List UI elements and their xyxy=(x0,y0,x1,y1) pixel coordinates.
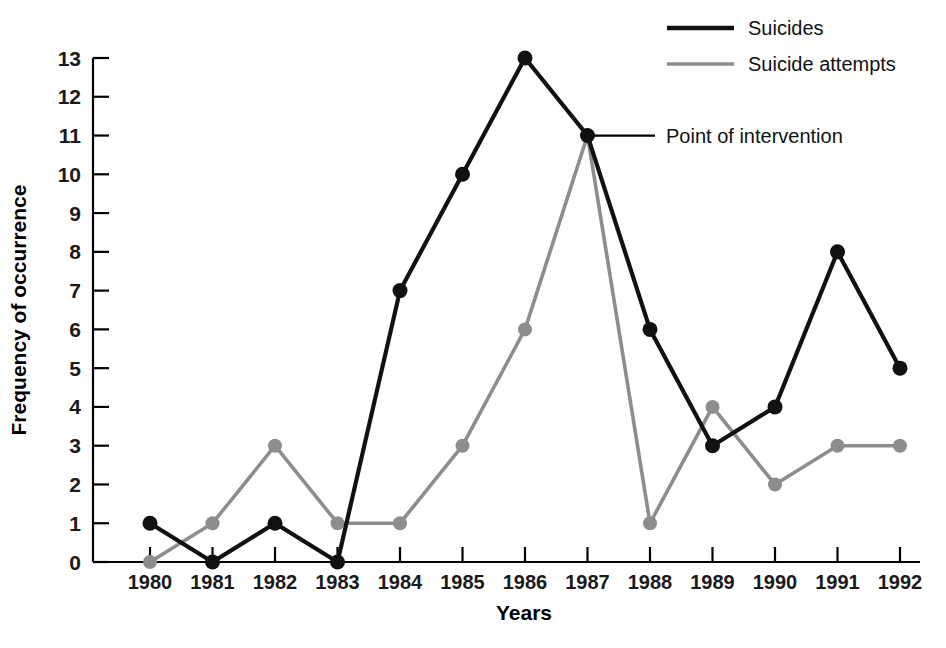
x-tick-label: 1987 xyxy=(565,571,610,593)
y-tick-label: 6 xyxy=(69,318,81,341)
x-axis-title: Years xyxy=(496,601,552,624)
data-point-marker xyxy=(393,516,407,530)
y-axis-title: Frequency of occurrence xyxy=(7,185,30,436)
data-point-marker xyxy=(580,128,595,143)
data-point-marker xyxy=(393,283,408,298)
y-tick-label: 0 xyxy=(69,551,81,574)
line-chart: 012345678910111213 198019811982198319841… xyxy=(0,0,946,648)
data-point-marker xyxy=(268,439,282,453)
data-point-marker xyxy=(830,244,845,259)
data-point-marker xyxy=(643,516,657,530)
data-point-marker xyxy=(893,439,907,453)
y-tick-label: 2 xyxy=(69,473,81,496)
chart-background xyxy=(0,0,946,648)
y-tick-label: 11 xyxy=(59,124,82,147)
chart-container: 012345678910111213 198019811982198319841… xyxy=(0,0,946,648)
x-tick-label: 1988 xyxy=(628,571,673,593)
data-point-marker xyxy=(831,439,845,453)
x-tick-label: 1990 xyxy=(753,571,798,593)
x-tick-label: 1991 xyxy=(815,571,860,593)
y-tick-label: 13 xyxy=(58,47,81,70)
x-tick-label: 1981 xyxy=(190,571,235,593)
x-tick-label: 1983 xyxy=(315,571,360,593)
data-point-marker xyxy=(268,516,283,531)
y-tick-label: 9 xyxy=(69,202,81,225)
data-point-marker xyxy=(206,516,220,530)
data-point-marker xyxy=(518,322,532,336)
data-point-marker xyxy=(330,555,345,570)
y-tick-label: 7 xyxy=(69,279,81,302)
y-tick-label: 1 xyxy=(69,512,81,535)
data-point-marker xyxy=(143,555,157,569)
data-point-marker xyxy=(705,438,720,453)
y-tick-label: 12 xyxy=(58,85,81,108)
y-tick-label: 8 xyxy=(69,240,81,263)
data-point-marker xyxy=(331,516,345,530)
y-tick-label: 4 xyxy=(69,395,81,418)
x-tick-label: 1986 xyxy=(503,571,548,593)
data-point-marker xyxy=(518,51,533,66)
y-tick-label: 3 xyxy=(69,434,81,457)
annotation-point-of-intervention: Point of intervention xyxy=(666,125,843,147)
data-point-marker xyxy=(455,167,470,182)
y-tick-label: 5 xyxy=(69,357,81,380)
data-point-marker xyxy=(205,555,220,570)
data-point-marker xyxy=(893,361,908,376)
legend-item-label: Suicides xyxy=(748,17,824,39)
data-point-marker xyxy=(768,399,783,414)
x-tick-label: 1989 xyxy=(690,571,735,593)
legend-item-label: Suicide attempts xyxy=(748,53,896,75)
data-point-marker xyxy=(643,322,658,337)
x-tick-label: 1982 xyxy=(253,571,298,593)
data-point-marker xyxy=(768,477,782,491)
x-tick-label: 1985 xyxy=(440,571,485,593)
y-tick-label: 10 xyxy=(58,163,81,186)
data-point-marker xyxy=(456,439,470,453)
x-tick-label: 1980 xyxy=(128,571,173,593)
x-tick-label: 1984 xyxy=(378,571,423,593)
x-tick-label: 1992 xyxy=(878,571,923,593)
data-point-marker xyxy=(143,516,158,531)
data-point-marker xyxy=(706,400,720,414)
